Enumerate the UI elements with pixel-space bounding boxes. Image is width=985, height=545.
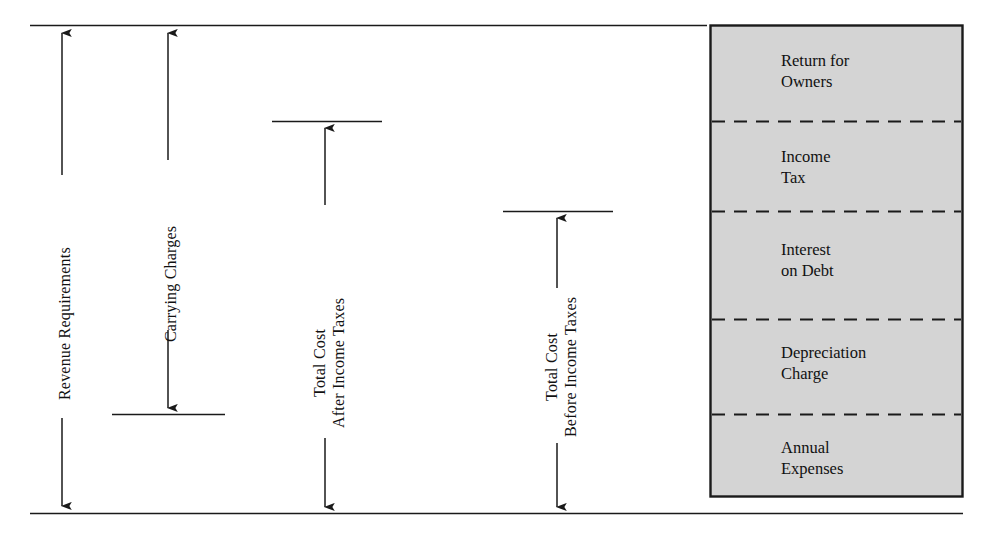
bracket-label-line: Revenue Requirements — [56, 247, 75, 400]
box-cell-line: Owners — [781, 71, 849, 92]
cost-component-box — [711, 26, 963, 497]
box-cell-line: Depreciation — [781, 342, 866, 363]
box-cell-depreciation-charge: Depreciation Charge — [781, 342, 866, 385]
bracket-label-total-cost-before-income-taxes: Total Cost Before Income Taxes — [543, 297, 580, 437]
box-cell-line: Return for — [781, 50, 849, 71]
bracket-label-line: Before Income Taxes — [562, 297, 581, 437]
box-cell-line: Tax — [781, 167, 830, 188]
box-cell-return-for-owners: Return for Owners — [781, 50, 849, 93]
box-cell-interest-on-debt: Interest on Debt — [781, 239, 834, 282]
bracket-label-carrying-charges: Carrying Charges — [162, 226, 181, 342]
revenue-requirements-diagram: Revenue Requirements Carrying Charges To… — [0, 0, 985, 545]
box-cell-annual-expenses: Annual Expenses — [781, 437, 843, 480]
bracket-label-total-cost-after-income-taxes: Total Cost After Income Taxes — [311, 298, 348, 428]
box-cell-line: Charge — [781, 363, 866, 384]
bracket-label-line: Total Cost — [311, 298, 330, 428]
bracket-label-line: Carrying Charges — [162, 226, 181, 342]
bracket-carrying-charges — [112, 33, 225, 415]
box-cell-line: Income — [781, 146, 830, 167]
bracket-label-revenue-requirements: Revenue Requirements — [56, 247, 75, 400]
box-cell-line: Expenses — [781, 458, 843, 479]
cost-component-box-frame — [711, 26, 963, 497]
bracket-label-line: Total Cost — [543, 297, 562, 437]
box-cell-line: Annual — [781, 437, 843, 458]
box-cell-line: Interest — [781, 239, 834, 260]
box-cell-line: on Debt — [781, 260, 834, 281]
box-cell-income-tax: Income Tax — [781, 146, 830, 189]
bracket-label-line: After Income Taxes — [330, 298, 349, 428]
